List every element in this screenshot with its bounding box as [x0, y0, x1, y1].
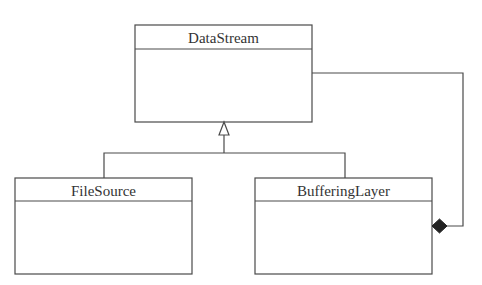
hollow-triangle-arrowhead-icon: [219, 122, 229, 135]
uml-diagram: DataStream FileSource BufferingLayer: [0, 0, 482, 285]
class-filesource[interactable]: FileSource: [15, 178, 192, 274]
class-bufferinglayer[interactable]: BufferingLayer: [255, 178, 432, 274]
class-name: FileSource: [71, 183, 136, 199]
class-name: DataStream: [188, 30, 259, 46]
class-datastream[interactable]: DataStream: [135, 25, 312, 122]
inheritance-branch-line: [104, 153, 345, 178]
filled-diamond-composition-icon: [432, 219, 447, 233]
generalization-connector: [104, 122, 345, 178]
class-name: BufferingLayer: [297, 183, 390, 199]
